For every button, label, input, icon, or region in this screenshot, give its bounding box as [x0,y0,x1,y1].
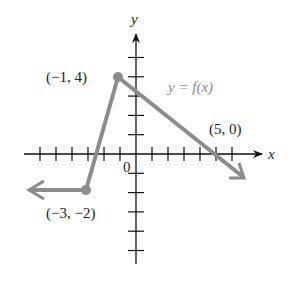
label-point-5-0: (5, 0) [209,121,242,138]
x-axis [24,147,262,161]
label-point-neg3-neg2: (−3, −2) [46,205,95,222]
origin-label: 0 [123,159,131,175]
point-marker-min [81,185,91,195]
label-point-neg1-4: (−1, 4) [46,69,87,86]
x-axis-label: x [267,146,275,162]
y-axis [128,34,144,264]
y-axis-label: y [129,11,138,27]
point-marker-max [113,72,123,82]
label-function: y = f(x) [166,79,213,96]
function-graph: (−1, 4) y = f(x) (5, 0) (−3, −2) x y 0 [0,0,288,285]
